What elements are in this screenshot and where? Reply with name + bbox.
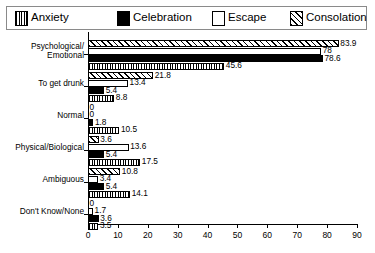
bar-escape: 13.6 [0,144,375,151]
x-axis-tick [88,224,89,228]
bar-rect [88,223,98,230]
bar-rect [88,151,104,158]
bar-value-label: 10.8 [122,167,138,176]
x-axis-tick [357,224,358,228]
bar-value-label: 5.4 [106,150,118,159]
x-axis-tick-label: 80 [322,230,331,240]
legend-item-escape: Escape [212,7,266,29]
x-axis-tick [237,224,238,228]
x-axis-tick-label: 90 [352,230,361,240]
x-axis-tick [208,224,209,228]
bar-escape: 1.7 [0,208,375,215]
legend-swatch-anxiety-icon [15,11,28,26]
x-axis-tick-label: 70 [292,230,301,240]
chart-legend: AnxietyCelebrationEscapeConsolation [6,6,367,30]
bar-consolation: 0 [0,104,375,111]
x-axis-tick-label: 50 [233,230,242,240]
bar-celebration: 5.4 [0,183,375,190]
bar-value-label: 1.8 [95,118,107,127]
x-axis-tick-label: 40 [203,230,212,240]
legend-item-anxiety: Anxiety [15,7,69,29]
bar-rect [88,215,99,222]
x-axis-tick [327,224,328,228]
bar-rect [88,119,93,126]
bar-celebration: 5.4 [0,151,375,158]
bar-escape: 3.4 [0,176,375,183]
legend-label: Escape [228,12,266,24]
bar-rect [88,208,93,215]
bar-celebration: 78.6 [0,55,375,62]
bar-value-label: 78.6 [324,54,340,63]
bar-rect [88,48,321,55]
x-axis-tick-label: 20 [143,230,152,240]
legend-label: Consolation [306,12,367,24]
bar-escape: 13.4 [0,80,375,87]
bar-rect [88,136,99,143]
bar-value-label: 45.6 [226,61,242,70]
x-axis-tick [297,224,298,228]
bar-value-label: 5.4 [106,182,118,191]
bar-rect [88,127,119,134]
bar-value-label: 0 [90,110,95,119]
bar-consolation: 83.9 [0,40,375,47]
bar-value-label: 17.5 [142,157,158,166]
x-axis-tick-label: 0 [86,230,91,240]
legend-label: Celebration [133,12,192,24]
bar-consolation: 3.6 [0,136,375,143]
bar-rect [88,40,339,47]
legend-label: Anxiety [31,12,69,24]
legend-swatch-celebration-icon [117,11,130,26]
bar-celebration: 1.8 [0,119,375,126]
bar-rect [88,55,323,62]
legend-item-consolation: Consolation [290,7,367,29]
bar-rect [88,191,130,198]
bar-anxiety: 45.6 [0,63,375,70]
bar-value-label: 10.5 [121,125,137,134]
legend-item-celebration: Celebration [117,7,192,29]
x-axis-tick [267,224,268,228]
bar-rect [88,63,224,70]
x-axis-tick [118,224,119,228]
bar-celebration: 5.4 [0,87,375,94]
bar-anxiety: 17.5 [0,159,375,166]
legend-swatch-escape-icon [212,11,225,26]
x-axis-tick-label: 60 [263,230,272,240]
bar-anxiety: 3.5 [0,223,375,230]
bar-rect [88,87,104,94]
bar-value-label: 21.8 [155,71,171,80]
x-axis-tick [178,224,179,228]
bar-value-label: 0 [90,199,95,208]
bar-value-label: 14.1 [132,189,148,198]
bar-value-label: 83.9 [340,39,356,48]
legend-swatch-consolation-icon [290,11,303,26]
bar-rect [88,159,140,166]
bar-escape: 0 [0,112,375,119]
bar-escape: 78 [0,48,375,55]
bar-rect [88,176,98,183]
bar-value-label: 3.5 [100,221,112,230]
x-axis-tick [148,224,149,228]
bar-rect [88,95,114,102]
bar-consolation: 0 [0,200,375,207]
bar-anxiety: 8.8 [0,95,375,102]
bar-consolation: 10.8 [0,168,375,175]
bar-consolation: 21.8 [0,72,375,79]
plot-area: Psychological/Emotional83.97878.645.6To … [0,32,375,253]
x-axis-tick-label: 10 [113,230,122,240]
bar-value-label: 13.6 [130,142,146,151]
bar-value-label: 13.4 [130,78,146,87]
bar-value-label: 3.6 [100,135,112,144]
x-axis-tick-label: 30 [173,230,182,240]
bar-celebration: 3.6 [0,215,375,222]
bar-anxiety: 14.1 [0,191,375,198]
bar-value-label: 8.8 [116,93,128,102]
bar-rect [88,183,104,190]
bar-anxiety: 10.5 [0,127,375,134]
bar-chart: AnxietyCelebrationEscapeConsolation Psyc… [0,0,375,253]
